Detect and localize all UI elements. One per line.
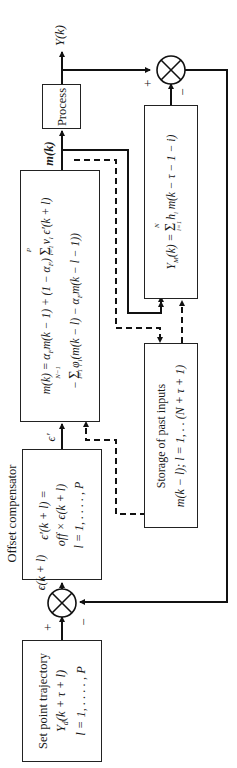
plus-sign-sum1: + bbox=[44, 620, 51, 636]
controller-line-2: − ΣN−1l=1 φl(m(k − l) − αFm(k − l − 1)) bbox=[60, 198, 89, 394]
model-block: YM(k) = ΣNi=1 hi m(k − τ − 1 − i) bbox=[144, 105, 198, 299]
manipulated-label: m(k) bbox=[42, 141, 57, 165]
storage-range: m(k − l); l = 1, . . (N + τ + 1) bbox=[171, 364, 190, 506]
controller-block: m(k) = αFm(k − 1) + (1 − αF) ΣPl=1 νl ϵ′… bbox=[20, 170, 100, 422]
sum-symbol: ΣNi=1 bbox=[161, 223, 181, 231]
storage-block: Storage of past inputs m(k − l); l = 1, … bbox=[144, 343, 198, 528]
offset-line-1: ϵ′(k + l) = bbox=[36, 481, 53, 548]
sum-symbol: ΣPl=1 bbox=[31, 247, 60, 255]
model-formula: YM(k) = ΣNi=1 hi m(k − τ − 1 − i) bbox=[161, 135, 181, 270]
plus-sign-sum2: + bbox=[144, 76, 151, 92]
process-label: Process bbox=[52, 87, 70, 125]
setpoint-range: l = 1, . . . . , P bbox=[72, 653, 90, 749]
storage-title: Storage of past inputs bbox=[152, 364, 171, 506]
sum-symbol: ΣN−1l=1 bbox=[60, 371, 89, 379]
setpoint-formula: Yd(k + τ + l) bbox=[52, 653, 72, 749]
minus-sign-sum1: − bbox=[76, 618, 92, 625]
error-label: ϵ(k + l) bbox=[34, 555, 49, 591]
setpoint-block: Set point trajectory Yd(k + τ + l) l = 1… bbox=[22, 640, 102, 762]
setpoint-title: Set point trajectory bbox=[34, 653, 52, 749]
offset-caption: Offset compensator bbox=[5, 454, 20, 574]
offset-line-2: off × ϵ(k + l) bbox=[53, 481, 70, 548]
offset-line-3: l = 1, . . . . , P bbox=[71, 481, 88, 548]
output-label: Y(k) bbox=[53, 25, 68, 46]
minus-sign-sum2: − bbox=[175, 88, 191, 95]
controller-line-1: m(k) = αFm(k − 1) + (1 − αF) ΣPl=1 νl ϵ′… bbox=[31, 198, 60, 394]
corrected-error-label: ϵ′ bbox=[44, 434, 59, 442]
process-block: Process bbox=[42, 84, 81, 129]
